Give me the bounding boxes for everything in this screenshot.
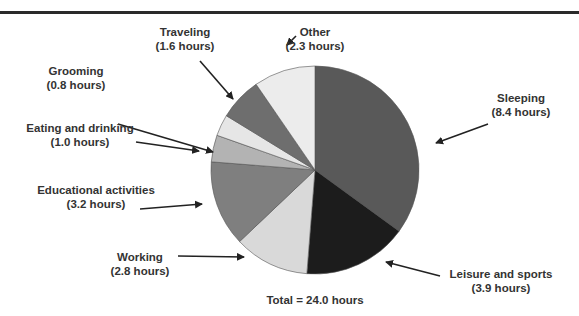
arrow-working [178,256,244,257]
total-label: Total = 24.0 hours [266,294,363,306]
label-value: (2.8 hours) [111,264,170,278]
label-name: Eating and drinking [26,121,133,135]
label-value: (2.3 hours) [286,39,345,53]
label-value: (1.6 hours) [156,39,215,53]
label-name: Leisure and sports [450,267,553,281]
label-name: Traveling [156,25,215,39]
label-grooming: Grooming (0.8 hours) [47,64,106,92]
label-name: Working [111,250,170,264]
label-value: (3.9 hours) [450,281,553,295]
label-sleeping: Sleeping (8.4 hours) [492,91,551,119]
label-name: Other [286,25,345,39]
label-other: Other (2.3 hours) [286,25,345,53]
arrow-traveling [200,61,233,99]
label-educational: Educational activities (3.2 hours) [37,183,155,211]
label-value: (1.0 hours) [26,135,133,149]
label-traveling: Traveling (1.6 hours) [156,25,215,53]
arrow-eating [136,142,199,151]
label-name: Grooming [47,64,106,78]
pie-slices [211,66,419,274]
label-eating: Eating and drinking (1.0 hours) [26,121,133,149]
label-leisure: Leisure and sports (3.9 hours) [450,267,553,295]
label-value: (0.8 hours) [47,78,106,92]
arrow-sleeping [436,124,488,143]
label-value: (3.2 hours) [37,197,155,211]
label-name: Educational activities [37,183,155,197]
label-working: Working (2.8 hours) [111,250,170,278]
label-name: Sleeping [492,91,551,105]
arrow-leisure [386,262,440,276]
label-value: (8.4 hours) [492,105,551,119]
